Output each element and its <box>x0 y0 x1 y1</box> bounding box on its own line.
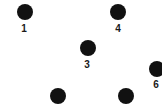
dot-diagram: 1 4 3 6 <box>0 0 162 105</box>
node-label-6: 6 <box>153 80 159 90</box>
node-dot-3 <box>80 40 96 56</box>
node-dot-6 <box>149 61 162 77</box>
node-dot-bottom-right <box>118 88 134 104</box>
node-dot-4 <box>110 4 126 20</box>
node-label-1: 1 <box>21 24 27 34</box>
node-dot-bottom-left <box>50 88 66 104</box>
node-label-3: 3 <box>84 60 90 70</box>
node-label-4: 4 <box>115 24 121 34</box>
node-dot-1 <box>17 4 33 20</box>
